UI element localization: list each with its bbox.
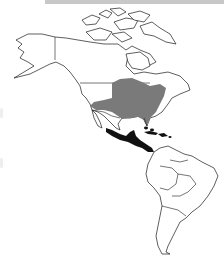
americas-map [0, 0, 224, 272]
south-america [146, 146, 218, 254]
arctic-islands [82, 8, 176, 44]
north-america [14, 34, 190, 130]
caribbean-islands [144, 127, 172, 138]
